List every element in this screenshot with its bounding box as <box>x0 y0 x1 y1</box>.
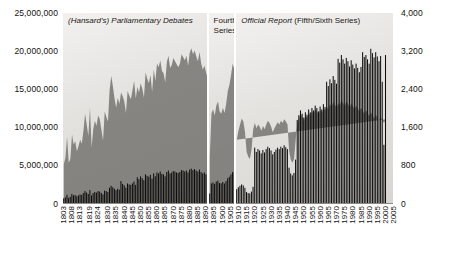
panel-title: Fourth Series <box>214 16 235 36</box>
y-right-tick: 4,000 <box>401 9 423 18</box>
x-axis-tick: 2005 <box>390 206 398 224</box>
y-left-tick: 15,000,000 <box>14 85 58 94</box>
series-layer <box>209 13 235 204</box>
panel-baseline <box>236 203 393 204</box>
y-right-tick: 1,600 <box>401 123 423 132</box>
y-right-tick: 2,400 <box>401 85 423 94</box>
panel-title: (Hansard's) Parliamentary Debates <box>68 16 193 26</box>
y-axis-right: 08001,6002,4003,2004,000 <box>395 0 457 266</box>
plot-area: (Hansard's) Parliamentary DebatesFourth … <box>63 13 395 204</box>
panel-title: Official Report (Fifth/Sixth Series) <box>241 16 360 26</box>
y-left-tick: 5,000,000 <box>19 161 58 170</box>
y-right-tick: 0 <box>401 200 406 209</box>
x-axis: 1803180818131819182418301835184018451850… <box>63 206 395 266</box>
series-layer <box>236 13 393 204</box>
series-layer <box>63 13 207 204</box>
y-left-tick: 20,000,000 <box>14 47 58 56</box>
y-right-tick: 3,200 <box>401 47 423 56</box>
panel-official-report: Official Report (Fifth/Sixth Series) <box>236 13 393 204</box>
y-left-tick: 0 <box>53 200 58 209</box>
x-axis-tick: 1824 <box>94 206 102 224</box>
y-right-tick: 800 <box>401 161 415 170</box>
chart-root: 05,000,00010,000,00015,000,00020,000,000… <box>0 0 457 266</box>
y-left-tick: 10,000,000 <box>14 123 58 132</box>
panel-baseline <box>63 203 207 204</box>
panel-fourth-series: Fourth Series <box>209 13 235 204</box>
y-left-tick: 25,000,000 <box>14 9 58 18</box>
panel-baseline <box>209 203 235 204</box>
panel-hansards-parliamentary-debates: (Hansard's) Parliamentary Debates <box>63 13 207 204</box>
y-axis-left: 05,000,00010,000,00015,000,00020,000,000… <box>0 0 62 266</box>
x-axis-tick: 1813 <box>76 206 84 224</box>
